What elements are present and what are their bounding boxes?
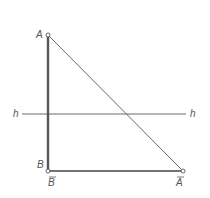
diagram-canvas: A B B A h h — [0, 0, 210, 198]
segment-a-abar — [48, 35, 183, 171]
label-a: A — [35, 29, 43, 40]
label-a-bar: A — [175, 177, 183, 188]
label-h-left: h — [13, 108, 19, 119]
label-b-bar: B — [48, 177, 55, 188]
label-h-right: h — [190, 108, 196, 119]
point-abar-marker — [181, 169, 185, 173]
point-b-marker — [46, 169, 50, 173]
point-a-marker — [46, 33, 50, 37]
label-b: B — [37, 159, 44, 170]
